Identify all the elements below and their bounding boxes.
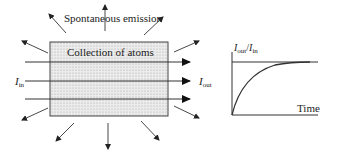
emission-label: Spontaneous emission bbox=[64, 12, 163, 24]
graph-xlabel: Time bbox=[297, 102, 320, 114]
output-intensity-label: Iout bbox=[198, 75, 212, 89]
input-intensity-label: Iin bbox=[14, 75, 25, 89]
atom-emission-diagram: Spontaneous emission Collection of atoms… bbox=[0, 0, 343, 155]
box-label: Collection of atoms bbox=[67, 46, 154, 58]
graph-ylabel: Iout/Iin bbox=[233, 42, 258, 55]
